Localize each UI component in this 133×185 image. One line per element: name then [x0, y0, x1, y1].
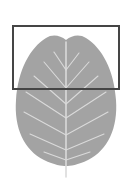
- selection-rectangle: [12, 25, 120, 90]
